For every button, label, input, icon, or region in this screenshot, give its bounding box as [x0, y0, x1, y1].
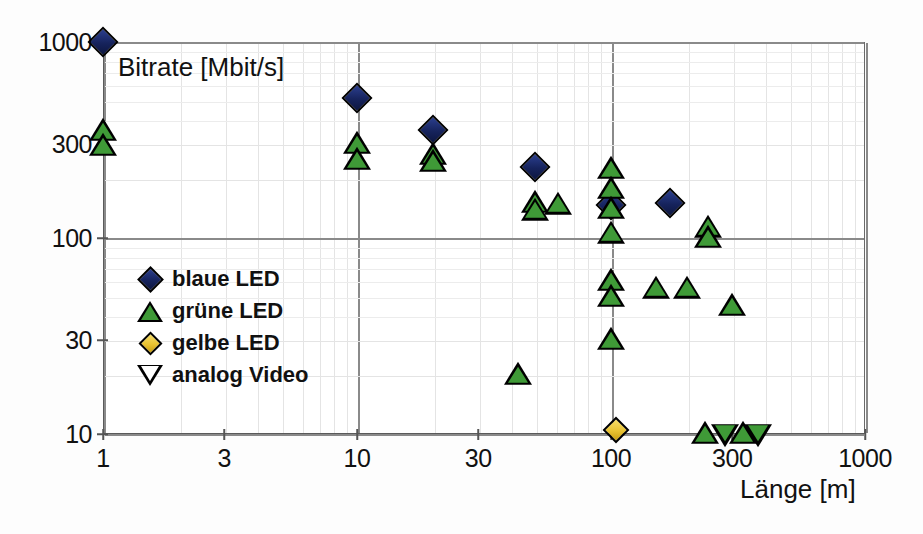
data-point-grüne-led: [343, 147, 371, 170]
y-tick-mark: [97, 237, 108, 239]
x-axis-caption: Länge [m]: [740, 474, 856, 505]
gridline: [105, 258, 864, 259]
gridline: [105, 86, 864, 87]
gridline: [105, 42, 864, 43]
x-tick-100: 100: [591, 444, 631, 473]
data-point-grüne-led: [642, 276, 670, 299]
triangle-up-green-icon: [137, 301, 163, 322]
data-point-grüne-led: [597, 284, 625, 307]
x-tick-mark: [864, 429, 866, 440]
diamond-yellow-icon: [138, 331, 162, 355]
legend-label: blaue LED: [172, 266, 280, 292]
data-point-analog-video: [744, 424, 772, 447]
x-tick-3: 3: [217, 444, 230, 473]
y-tick-mark: [97, 340, 108, 342]
x-tick-1: 1: [96, 444, 109, 473]
data-point-grüne-led: [89, 133, 117, 156]
data-point-grüne-led: [504, 362, 532, 385]
y-tick-1000: 1000: [0, 28, 92, 57]
y-tick-10: 10: [0, 420, 92, 449]
x-tick-10: 10: [344, 444, 371, 473]
legend-symbol-wrap: [128, 270, 172, 289]
gridline: [105, 145, 864, 146]
legend-item-gelbe-led[interactable]: gelbe LED: [128, 327, 343, 359]
y-axis-caption: Bitrate [Mbit/s]: [118, 52, 284, 83]
data-point-grüne-led: [419, 149, 447, 172]
legend-label: gelbe LED: [172, 330, 280, 356]
gridline: [866, 43, 867, 433]
legend-symbol-wrap: [128, 301, 172, 322]
y-tick-30: 30: [0, 326, 92, 355]
data-point-analog-video: [711, 424, 739, 447]
data-point-grüne-led: [718, 293, 746, 316]
x-tick-30: 30: [465, 444, 492, 473]
y-tick-100: 100: [0, 224, 92, 253]
data-point-grüne-led: [597, 327, 625, 350]
x-tick-mark: [477, 429, 479, 440]
legend-item-grüne-led[interactable]: grüne LED: [128, 295, 343, 327]
legend-label: analog Video: [172, 362, 309, 388]
gridline: [105, 248, 864, 249]
legend-label: grüne LED: [172, 298, 283, 324]
x-tick-mark: [223, 429, 225, 440]
data-point-grüne-led: [544, 191, 572, 214]
chart-legend: blaue LEDgrüne LEDgelbe LEDanalog Video: [128, 263, 343, 391]
x-tick-300: 300: [712, 444, 752, 473]
gridline: [105, 180, 864, 181]
legend-symbol-wrap: [128, 365, 172, 386]
triangle-down-white-icon: [137, 365, 163, 386]
legend-item-analog-video[interactable]: analog Video: [128, 359, 343, 391]
data-point-grüne-led: [673, 276, 701, 299]
x-tick-mark: [102, 429, 104, 440]
gridline: [105, 102, 864, 103]
data-point-grüne-led: [694, 225, 722, 248]
gridline: [105, 121, 864, 122]
chart-figure: Bitrate [Mbit/s] Länge [m] 1030100300100…: [0, 0, 923, 534]
x-tick-1000: 1000: [838, 444, 892, 473]
legend-item-blaue-led[interactable]: blaue LED: [128, 263, 343, 295]
data-point-grüne-led: [597, 221, 625, 244]
x-tick-mark: [356, 429, 358, 440]
diamond-blue-icon: [137, 266, 164, 293]
data-point-grüne-led: [597, 196, 625, 219]
y-tick-300: 300: [0, 130, 92, 159]
legend-symbol-wrap: [128, 335, 172, 352]
gridline: [105, 238, 864, 239]
